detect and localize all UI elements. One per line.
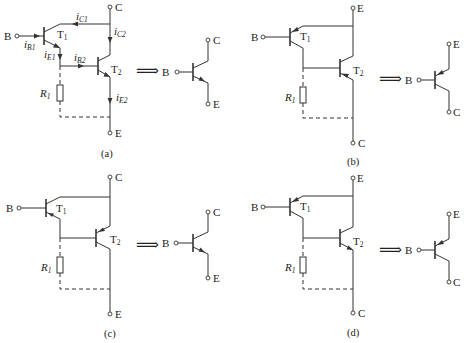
eq-b-label: B [162,66,169,78]
terminal-b-label: B [251,31,258,43]
terminal-b-icon [17,206,21,210]
ic1-arrow-icon [72,22,78,27]
terminal-e-icon [351,176,355,180]
r1-resistor [300,257,306,273]
eq-c-label: C [453,106,460,118]
panel-a: B iB1 T1 iC1 C iC2 iE1 iB2 T2 [4,1,220,160]
eq-collector [193,214,208,239]
current-ie1: iE1 [44,48,55,62]
t2-collector [98,55,110,61]
eq-b-terminal-icon [417,78,421,82]
eq-b-terminal-icon [175,70,179,74]
eq-b-label: B [405,74,412,86]
t2-label: T2 [353,235,364,249]
equivalence-arrow-icon: ⟹ [136,236,159,253]
ib1-arrow-icon [34,34,40,39]
terminal-e-icon [108,312,112,316]
t2-label: T2 [111,63,122,77]
terminal-e-label: E [115,308,122,320]
terminal-c-label: C [358,307,365,319]
t2-emitter-arrow-icon [104,72,111,77]
darlington-figure: B iB1 T1 iC1 C iC2 iE1 iB2 T2 [0,0,467,343]
eq-b-terminal-icon [417,248,421,252]
eq-emitter-arrow-icon [199,248,206,253]
r1-resistor [57,257,63,273]
r1-dashed-bottom [303,103,353,118]
r1-dashed-bottom [60,101,110,117]
caption-c: (c) [104,328,116,340]
terminal-b-icon [15,34,19,38]
terminal-c-icon [351,311,355,315]
t1-label: T1 [300,200,311,214]
eq-emitter-arrow-icon [437,240,444,245]
current-ie2: iE2 [116,91,128,105]
eq-c-terminal-icon [447,110,451,114]
t1-label: T1 [300,30,311,44]
equivalence-arrow-icon: ⟹ [379,241,402,258]
eq-c-label: C [453,276,460,288]
terminal-e-label: E [357,172,364,184]
ie2-arrow-icon [108,98,113,104]
current-ic2: iC2 [114,25,126,39]
r1-label: R1 [39,87,50,101]
terminal-c-icon [108,175,112,179]
t1-collector [290,211,303,218]
eq-e-label: E [213,98,220,110]
terminal-e-label: E [357,2,364,14]
r1-label: R1 [284,261,295,275]
terminal-c-label: C [358,137,365,149]
t1-emitter-arrow-icon [292,197,299,202]
terminal-b-label: B [6,202,13,214]
equivalent-npn-c: B C E [162,206,220,284]
equivalent-pnp-d: B E C [405,208,460,288]
eq-b-terminal-icon [174,241,178,245]
eq-e-terminal-icon [206,102,210,106]
eq-e-label: E [453,208,460,220]
eq-emitter-arrow-icon [199,77,206,82]
terminal-b-label: B [4,30,11,42]
terminal-b-label: B [251,201,258,213]
r1-resistor [300,87,306,103]
t2-label: T2 [353,64,364,78]
t1-collector [290,41,303,48]
t2-label: T2 [110,233,121,247]
terminal-c-icon [351,141,355,145]
terminal-c-label: C [115,171,122,183]
eq-e-label: E [453,38,460,50]
panel-b: B T1 E T2 C R1 (b) ⟹ B [251,2,460,168]
equivalent-pnp-b: B E C [405,38,460,118]
ic2-arrow-icon [108,37,113,43]
terminal-e-icon [108,131,112,135]
current-ic1: iC1 [76,10,88,24]
t1-emitter-arrow-icon [48,213,54,217]
current-ib1: iB1 [24,38,35,52]
eq-c-terminal-icon [206,210,210,214]
eq-b-label: B [405,244,412,256]
terminal-c-label: C [115,1,122,13]
eq-c-terminal-icon [206,38,210,42]
terminal-b-icon [261,35,265,39]
panel-c: B T1 C T2 E R1 (c) ⟹ B [6,171,220,340]
caption-b: (b) [347,156,360,168]
equivalence-arrow-icon: ⟹ [136,62,159,79]
t1-label: T1 [56,202,67,216]
r1-dashed-bottom [60,273,110,289]
terminal-e-label: E [115,127,122,139]
t1-label: T1 [57,28,68,42]
t2-collector [340,227,353,233]
eq-e-terminal-icon [447,212,451,216]
caption-d: (d) [347,327,360,339]
eq-emitter-arrow-icon [437,70,444,75]
r1-resistor [57,85,63,101]
t2-collector [96,242,110,249]
caption-a: (a) [101,148,113,160]
t1-emitter-arrow-icon [292,27,299,32]
eq-collector [435,254,449,280]
t2-collector [340,56,353,62]
terminal-e-icon [351,6,355,10]
r1-label: R1 [284,91,295,105]
t2-emitter-arrow-icon [98,228,105,233]
eq-collector [435,84,449,110]
terminal-c-icon [108,5,112,9]
equivalence-arrow-icon: ⟹ [379,70,402,87]
